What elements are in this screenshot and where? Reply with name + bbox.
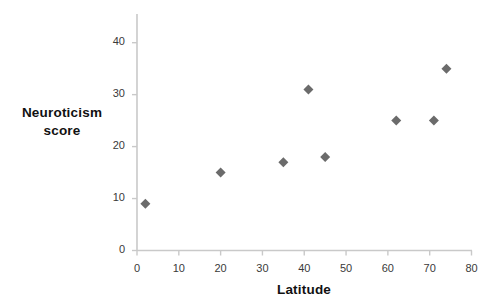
- axis-lines: [137, 14, 472, 251]
- x-tick-label: 0: [125, 262, 149, 274]
- y-tick-label: 30: [101, 87, 125, 99]
- data-point-marker: [429, 116, 439, 126]
- x-tick-label: 40: [292, 262, 316, 274]
- data-point-marker: [441, 64, 451, 74]
- x-tick-label: 30: [250, 262, 274, 274]
- x-tick-label: 80: [460, 262, 484, 274]
- y-tick-label: 0: [101, 243, 125, 255]
- y-tick-label: 40: [101, 35, 125, 47]
- data-point-markers: [140, 64, 451, 209]
- x-tick-label: 10: [167, 262, 191, 274]
- scatter-chart: Neuroticism score Latitude 010203040 010…: [0, 0, 502, 308]
- data-point-marker: [391, 116, 401, 126]
- data-point-marker: [278, 157, 288, 167]
- y-tick-label: 20: [101, 139, 125, 151]
- x-tick-label: 20: [209, 262, 233, 274]
- y-tick-label: 10: [101, 191, 125, 203]
- data-point-marker: [140, 199, 150, 209]
- data-point-marker: [320, 152, 330, 162]
- x-tick-label: 50: [334, 262, 358, 274]
- x-tick-label: 60: [376, 262, 400, 274]
- data-point-marker: [216, 168, 226, 178]
- x-tick-label: 70: [418, 262, 442, 274]
- data-point-marker: [303, 84, 313, 94]
